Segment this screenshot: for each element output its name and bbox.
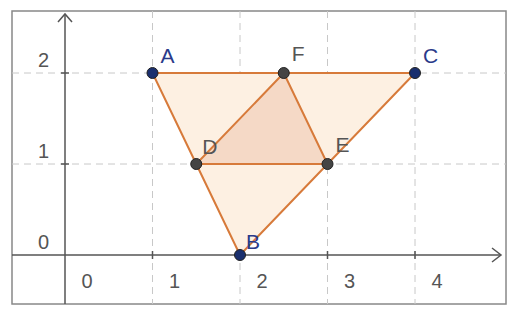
point-label: A bbox=[161, 44, 175, 67]
point-marker-icon[interactable] bbox=[191, 159, 202, 170]
point-label: C bbox=[423, 44, 438, 67]
y-tick-label: 0 bbox=[38, 231, 49, 253]
point-marker-icon[interactable] bbox=[322, 159, 333, 170]
y-tick-label: 2 bbox=[38, 49, 49, 71]
coordinate-plane: 01234012 ABCDEF bbox=[0, 0, 518, 321]
point-marker-icon[interactable] bbox=[278, 68, 289, 79]
x-tick-label: 3 bbox=[344, 270, 355, 292]
point-label: B bbox=[246, 230, 260, 253]
x-tick-label: 4 bbox=[431, 270, 442, 292]
x-tick-label: 2 bbox=[256, 270, 267, 292]
point-marker-icon[interactable] bbox=[235, 250, 246, 261]
point-label: D bbox=[202, 135, 217, 158]
point-label: E bbox=[336, 133, 350, 156]
y-tick-label: 1 bbox=[38, 140, 49, 162]
point-label: F bbox=[292, 42, 305, 65]
point-marker-icon[interactable] bbox=[147, 68, 158, 79]
x-tick-label: 1 bbox=[169, 270, 180, 292]
point-marker-icon[interactable] bbox=[410, 68, 421, 79]
geometry-canvas: 01234012 ABCDEF bbox=[0, 0, 518, 321]
x-tick-label: 0 bbox=[81, 270, 92, 292]
